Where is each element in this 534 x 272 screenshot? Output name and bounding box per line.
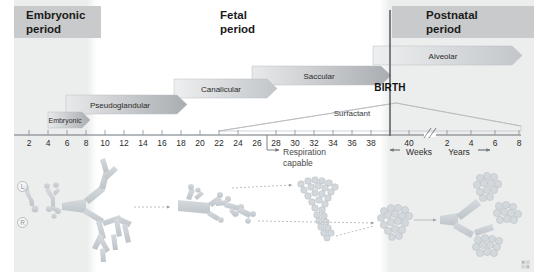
canalicular-airway-illustration	[178, 184, 256, 224]
tick-label-week-18: 18	[176, 138, 185, 148]
tick-label-year-6: 6	[493, 138, 498, 148]
respiration-capable-line1: Respiration	[283, 147, 326, 158]
tick-label-week-38: 38	[366, 138, 375, 148]
respiration-capable-line2: capable	[283, 158, 326, 169]
pseudoglandular-branching-tree-illustration	[62, 158, 132, 262]
mature-alveolar-sacs-illustration	[440, 199, 494, 238]
axis-scale-break	[424, 128, 436, 138]
tick-label-week-16: 16	[157, 138, 166, 148]
stage-arrow-embryonic	[48, 112, 90, 128]
stage-arrow-alveolar	[373, 46, 522, 65]
early-branching-airway-illustration	[44, 182, 61, 218]
tick-label-week-20: 20	[195, 138, 204, 148]
saccular-terminal-sacs-illustration	[298, 177, 339, 241]
tick-label-week-10: 10	[100, 138, 109, 148]
surfactant-label: Surfactant	[334, 109, 370, 118]
tick-label-week-12: 12	[119, 138, 128, 148]
stage-arrow-pseudoglandular	[66, 95, 187, 114]
unit-label-weeks: Weeks	[406, 147, 432, 157]
right-lung-marker: R	[17, 217, 28, 228]
lung-development-figure: Embryonic period Fetal period Postnatal …	[0, 0, 534, 272]
axis-ticks-weeks	[29, 130, 409, 135]
timeline-plot	[0, 0, 534, 272]
respiration-capable-label: Respiration capable	[283, 147, 326, 170]
unit-label-years: Years	[448, 147, 469, 157]
tick-label-week-36: 36	[347, 138, 356, 148]
tick-label-week-26: 26	[252, 138, 261, 148]
tick-label-week-8: 8	[84, 138, 89, 148]
tick-label-week-34: 34	[328, 138, 337, 148]
tick-label-year-8: 8	[517, 138, 522, 148]
stage-arrow-saccular	[252, 66, 391, 85]
tick-label-week-24: 24	[233, 138, 242, 148]
illustration-connector-arrows	[134, 185, 374, 236]
stage-arrow-canalicular	[174, 79, 277, 98]
airway-illustrations	[23, 158, 522, 262]
birth-label: BIRTH	[374, 82, 406, 93]
left-lung-marker: L	[17, 181, 28, 192]
alveolar-cluster-illustration	[377, 204, 412, 240]
tick-label-week-6: 6	[65, 138, 70, 148]
tick-label-week-2: 2	[27, 138, 32, 148]
tick-label-week-22: 22	[214, 138, 223, 148]
tick-label-week-4: 4	[46, 138, 51, 148]
mature-alveolar-sacs-clusters	[472, 172, 521, 256]
tick-label-week-28: 28	[271, 138, 280, 148]
corner-watermark-icon	[521, 260, 530, 269]
tick-label-week-14: 14	[138, 138, 147, 148]
